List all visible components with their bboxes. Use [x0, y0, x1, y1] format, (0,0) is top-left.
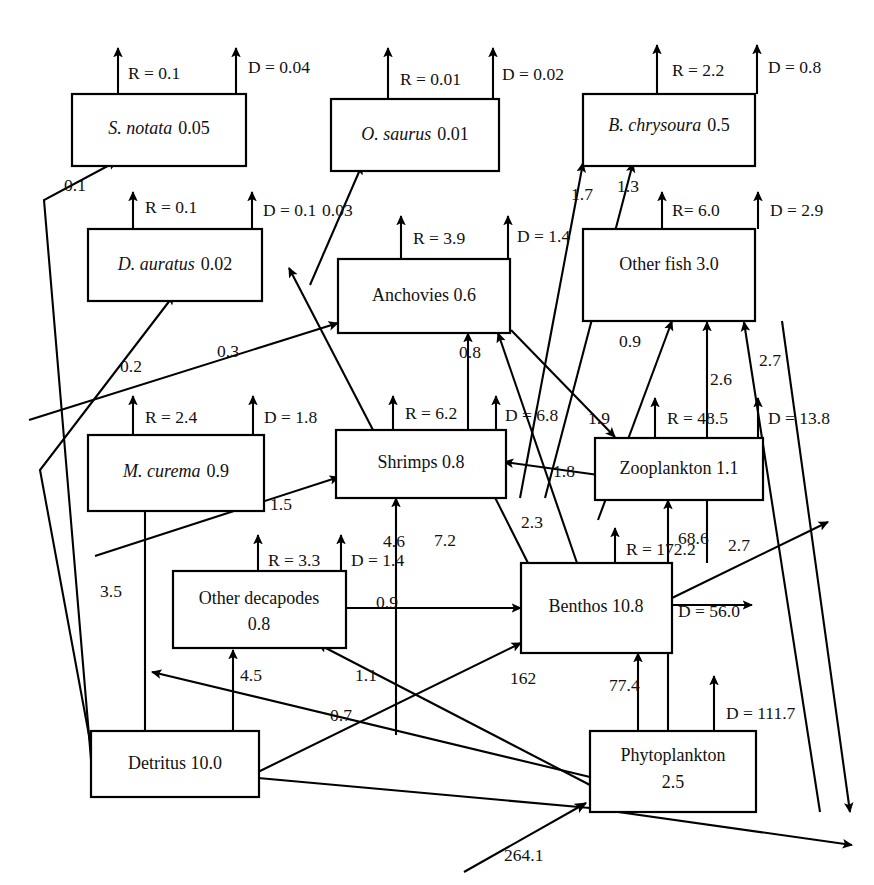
flow-label-benthos-shrimps: 7.2: [434, 530, 456, 550]
flow-label-detritus-benthos: 162: [510, 668, 536, 688]
flow-label-shrimps-anchovies: 0.8: [459, 342, 481, 362]
node-other-fish[interactable]: Other fish 3.0: [583, 229, 755, 321]
label-respiration-d-auratus: R = 0.1: [145, 197, 197, 217]
svg-text:O. saurus0.01: O. saurus0.01: [361, 124, 469, 144]
flow-label-detritus-anchovies: 0.3: [217, 341, 239, 361]
flow-label-zooplankton-other-fish: 0.9: [619, 331, 641, 351]
flow-label-detritus-other-decapodes: 4.5: [240, 665, 262, 685]
label-respiration-o-saurus: R = 0.01: [400, 69, 461, 89]
label-export-other-decapodes: D = 1.4: [351, 550, 404, 570]
node-benthos[interactable]: Benthos 10.8: [521, 563, 672, 653]
label-export-d-auratus: D = 0.1: [263, 200, 316, 220]
node-label-s-notata-value: 0.05: [178, 118, 210, 138]
label-export-phytoplankton: D = 111.7: [726, 703, 796, 723]
node-label-other-decapodes: Other decapodes: [199, 588, 319, 608]
link-detritus-to-d-auratus: [40, 295, 174, 795]
node-label-m-curema-value: 0.9: [206, 461, 229, 481]
node-label-m-curema-name: M. curema: [122, 461, 200, 481]
label-export-other-fish: D = 2.9: [770, 200, 823, 220]
node-o-saurus[interactable]: O. saurus0.01: [331, 99, 499, 171]
label-respiration-other-fish: R= 6.0: [672, 200, 720, 220]
flow-label-m-curema-shrimps: 1.5: [270, 494, 292, 514]
food-web-diagram: S. notata0.05 O. saurus0.01 B. chrysoura…: [0, 0, 874, 885]
node-label-other-decapodes-value: 0.8: [248, 614, 271, 634]
label-export-b-chrysoura: D = 0.8: [768, 57, 821, 77]
node-d-auratus[interactable]: D. auratus0.02: [88, 229, 262, 301]
label-export-anchovies: D = 1.4: [517, 226, 570, 246]
node-detritus[interactable]: Detritus 10.0: [91, 731, 259, 797]
label-export-m-curema: D = 1.8: [264, 407, 317, 427]
link-detritus-lower-crossing: [258, 778, 590, 808]
flow-label-detritus-d-auratus: 0.2: [120, 356, 142, 376]
label-export-shrimps: D = 6.8: [505, 405, 558, 425]
svg-text:S. notata0.05: S. notata0.05: [108, 118, 210, 138]
flow-label-shrimps-o-saurus: 0.03: [322, 200, 353, 220]
svg-text:B. chrysoura0.5: B. chrysoura0.5: [608, 115, 730, 135]
label-export-o-saurus: D = 0.02: [502, 64, 564, 84]
node-label-anchovies: Anchovies 0.6: [372, 285, 476, 305]
node-label-phytoplankton-value: 2.5: [662, 772, 685, 792]
flow-label-zooplankton-shrimps: 1.8: [553, 461, 575, 481]
flow-label-external-input-phytoplankton: 264.1: [504, 845, 543, 865]
node-m-curema[interactable]: M. curema0.9: [88, 435, 264, 511]
label-export-zooplankton: D = 13.8: [768, 408, 830, 428]
node-label-o-saurus-name: O. saurus: [361, 124, 431, 144]
node-label-phytoplankton: Phytoplankton: [620, 745, 725, 765]
node-label-b-chrysoura-name: B. chrysoura: [608, 115, 701, 135]
node-s-notata[interactable]: S. notata0.05: [72, 94, 246, 166]
node-label-other-fish: Other fish 3.0: [619, 254, 718, 274]
flow-label-phytoplankton-benthos: 77.4: [609, 675, 640, 695]
flow-label-benthos-b-chrysoura: 1.3: [617, 176, 639, 196]
label-respiration-m-curema: R = 2.4: [145, 407, 197, 427]
flow-label-phytoplankton-zooplankton: 68.6: [678, 528, 709, 548]
flow-label-phytoplankton-other-decapodes: 1.1: [355, 665, 377, 685]
label-respiration-anchovies: R = 3.9: [413, 228, 465, 248]
label-respiration-other-decapodes: R = 3.3: [268, 550, 320, 570]
label-export-benthos: D = 56.0: [678, 601, 740, 621]
node-label-d-auratus-name: D. auratus: [117, 254, 195, 274]
flow-label-benthos-other-fish: 2.6: [710, 369, 732, 389]
label-respiration-b-chrysoura: R = 2.2: [672, 60, 724, 80]
node-label-o-saurus-value: 0.01: [437, 124, 469, 144]
flow-label-benthos-zooplankton: 2.7: [728, 535, 750, 555]
node-label-zooplankton: Zooplankton 1.1: [620, 458, 739, 478]
node-label-shrimps: Shrimps 0.8: [377, 452, 464, 472]
food-web-canvas: S. notata0.05 O. saurus0.01 B. chrysoura…: [0, 0, 874, 885]
svg-text:M. curema0.9: M. curema0.9: [122, 461, 229, 481]
flow-label-benthos-anchovies: 2.3: [521, 512, 543, 532]
node-anchovies[interactable]: Anchovies 0.6: [338, 259, 510, 333]
link-other-fish-return: [782, 321, 850, 812]
node-shrimps[interactable]: Shrimps 0.8: [336, 430, 506, 498]
flow-label-detritus-shrimps: 4.6: [383, 531, 405, 551]
link-shrimps-to-b-chrysoura: [520, 163, 583, 498]
flow-label-other-decapodes-benthos: 0.9: [376, 592, 398, 612]
label-respiration-s-notata: R = 0.1: [128, 63, 180, 83]
flow-label-shrimps-zooplankton: 1.9: [588, 408, 610, 428]
node-label-d-auratus-value: 0.02: [201, 254, 233, 274]
node-zooplankton[interactable]: Zooplankton 1.1: [595, 438, 763, 500]
label-export-s-notata: D = 0.04: [248, 57, 310, 77]
node-label-s-notata-name: S. notata: [108, 118, 172, 138]
flow-label-shrimps-b-chrysoura: 1.7: [571, 184, 593, 204]
flow-label-phytoplankton-other-fish: 2.7: [759, 350, 781, 370]
flow-label-detritus-s-notata: 0.1: [64, 175, 86, 195]
svg-text:D. auratus0.02: D. auratus0.02: [117, 254, 233, 274]
label-respiration-shrimps: R = 6.2: [405, 403, 457, 423]
node-phytoplankton[interactable]: Phytoplankton 2.5: [590, 731, 756, 812]
link-detritus-to-anchovies: [29, 323, 338, 420]
flow-label-phytoplankton-detritus: 0.7: [330, 705, 352, 725]
node-other-decapodes[interactable]: Other decapodes 0.8: [173, 571, 346, 648]
node-b-chrysoura[interactable]: B. chrysoura0.5: [583, 94, 755, 166]
node-label-benthos: Benthos 10.8: [548, 596, 643, 616]
node-label-b-chrysoura-value: 0.5: [707, 115, 730, 135]
label-respiration-zooplankton: R = 48.5: [667, 408, 728, 428]
node-label-detritus: Detritus 10.0: [128, 753, 222, 773]
flow-label-detritus-m-curema: 3.5: [100, 581, 122, 601]
link-phytoplankton-to-lower-right: [590, 808, 852, 845]
